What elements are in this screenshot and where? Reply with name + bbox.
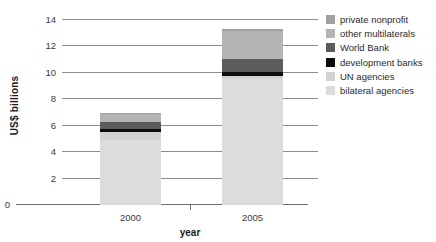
y-axis-tick-label: 4 (51, 146, 56, 157)
legend-item[interactable]: UN agencies (326, 71, 422, 82)
legend-item-label: development banks (340, 57, 422, 68)
y-axis-tick-label: 0 (5, 199, 10, 210)
legend-item-label: private nonprofit (340, 14, 408, 25)
x-axis-title: year (62, 227, 318, 238)
legend-item-label: other multilaterals (340, 28, 415, 39)
plot-area: 02468101214 (62, 20, 318, 205)
legend-item-label: World Bank (340, 42, 389, 53)
bar-segment-UN-agencies (100, 132, 161, 140)
y-axis-tick-label: 10 (45, 66, 56, 77)
gridline: 14 (62, 19, 318, 20)
bar-segment-other-multilaterals (100, 114, 161, 123)
legend-item[interactable]: bilateral agencies (326, 85, 422, 96)
y-axis-tick-label: 6 (51, 119, 56, 130)
bar-2005 (222, 29, 283, 205)
legend-item-label: UN agencies (340, 71, 394, 82)
legend-swatch-icon (326, 15, 335, 24)
bar-2000 (100, 113, 161, 205)
bar-segment-other-multilaterals (222, 31, 283, 59)
bar-segment-bilateral-agencies (100, 140, 161, 205)
legend-swatch-icon (326, 86, 335, 95)
legend-item[interactable]: other multilaterals (326, 28, 422, 39)
y-axis-title: US$ billions (4, 0, 26, 210)
y-axis-title-text: US$ billions (10, 75, 21, 135)
y-axis-tick-label: 14 (45, 14, 56, 25)
x-axis-tick-label: 2005 (242, 212, 263, 223)
legend-item[interactable]: World Bank (326, 42, 422, 53)
x-axis-tick-mark (190, 205, 191, 210)
legend-item-label: bilateral agencies (340, 85, 414, 96)
x-axis-tick-label: 2000 (120, 212, 141, 223)
bar-segment-World-Bank (222, 59, 283, 72)
y-axis-tick-label: 2 (51, 172, 56, 183)
legend-item[interactable]: development banks (326, 57, 422, 68)
y-axis-tick-label: 12 (45, 40, 56, 51)
bar-segment-World-Bank (100, 122, 161, 129)
legend-swatch-icon (326, 29, 335, 38)
legend-swatch-icon (326, 43, 335, 52)
y-axis-tick-label: 8 (51, 93, 56, 104)
chart-legend: private nonprofitother multilateralsWorl… (326, 14, 422, 96)
stacked-bar-chart: US$ billions 02468101214 year private no… (0, 0, 436, 242)
legend-swatch-icon (326, 58, 335, 67)
legend-swatch-icon (326, 72, 335, 81)
bar-segment-bilateral-agencies (222, 79, 283, 205)
legend-item[interactable]: private nonprofit (326, 14, 422, 25)
